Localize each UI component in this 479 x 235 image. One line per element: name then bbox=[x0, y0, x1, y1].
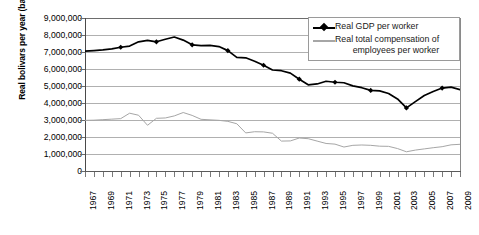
x-tick-label: 2001 bbox=[393, 191, 402, 210]
x-tick-mark bbox=[433, 172, 434, 177]
x-tick-label: 1969 bbox=[107, 191, 116, 210]
x-tick-label: 2005 bbox=[428, 191, 437, 210]
legend-label-gdp: Real GDP per worker bbox=[335, 21, 418, 32]
y-tick-mark bbox=[80, 35, 85, 36]
x-tick-label: 1981 bbox=[214, 191, 223, 210]
x-tick-mark bbox=[380, 172, 381, 177]
y-tick-label: 6,000,000 bbox=[10, 65, 82, 73]
legend-label-compensation-line1: Real total compensation of bbox=[335, 34, 439, 44]
x-tick-mark bbox=[299, 172, 300, 177]
x-tick-mark bbox=[290, 172, 291, 177]
y-tick-mark bbox=[80, 103, 85, 104]
x-tick-mark bbox=[362, 172, 363, 177]
x-tick-label: 1993 bbox=[321, 191, 330, 210]
x-tick-mark bbox=[192, 172, 193, 177]
y-tick-mark bbox=[80, 154, 85, 155]
x-tick-mark bbox=[210, 172, 211, 177]
data-point-marker bbox=[154, 39, 159, 44]
x-tick-mark bbox=[130, 172, 131, 177]
y-tick-mark bbox=[80, 69, 85, 70]
x-tick-mark bbox=[326, 172, 327, 177]
y-tick-label: 4,000,000 bbox=[10, 99, 82, 107]
legend-label-compensation-line2: employees per worker bbox=[335, 45, 439, 56]
legend-key-diamond-line-icon bbox=[313, 22, 335, 33]
y-tick-mark bbox=[80, 86, 85, 87]
x-axis-tick-labels: 1967196919711973197519771979198119831985… bbox=[0, 178, 479, 235]
x-tick-mark bbox=[85, 172, 86, 177]
x-tick-mark bbox=[156, 172, 157, 177]
y-tick-label: 0 bbox=[10, 167, 82, 175]
data-point-marker bbox=[368, 88, 373, 93]
x-tick-mark bbox=[112, 172, 113, 177]
x-tick-mark bbox=[246, 172, 247, 177]
x-tick-label: 1973 bbox=[143, 191, 152, 210]
x-tick-mark bbox=[94, 172, 95, 177]
legend-item-compensation: Real total compensation of employees per… bbox=[313, 34, 455, 55]
x-tick-mark bbox=[424, 172, 425, 177]
y-tick-mark bbox=[80, 120, 85, 121]
x-tick-mark bbox=[451, 172, 452, 177]
x-tick-label: 1991 bbox=[303, 191, 312, 210]
x-tick-mark bbox=[148, 172, 149, 177]
y-tick-mark bbox=[80, 137, 85, 138]
line-real-compensation-per-worker bbox=[85, 113, 460, 152]
legend-key-line-icon bbox=[313, 35, 335, 46]
x-tick-mark bbox=[460, 172, 461, 177]
x-tick-mark bbox=[201, 172, 202, 177]
x-tick-label: 1997 bbox=[357, 191, 366, 210]
x-tick-mark bbox=[344, 172, 345, 177]
x-tick-mark bbox=[139, 172, 140, 177]
x-tick-label: 1989 bbox=[285, 191, 294, 210]
x-tick-mark bbox=[121, 172, 122, 177]
x-tick-mark bbox=[317, 172, 318, 177]
y-tick-label: 3,000,000 bbox=[10, 116, 82, 124]
x-tick-mark bbox=[174, 172, 175, 177]
x-tick-label: 1967 bbox=[89, 191, 98, 210]
x-tick-label: 1983 bbox=[232, 191, 241, 210]
data-point-marker bbox=[118, 45, 123, 50]
x-tick-mark bbox=[228, 172, 229, 177]
x-tick-label: 1975 bbox=[160, 191, 169, 210]
data-point-marker bbox=[440, 85, 445, 90]
x-tick-mark bbox=[183, 172, 184, 177]
x-tick-label: 2003 bbox=[410, 191, 419, 210]
x-tick-mark bbox=[103, 172, 104, 177]
x-tick-label: 1977 bbox=[178, 191, 187, 210]
x-tick-mark bbox=[308, 172, 309, 177]
x-tick-mark bbox=[415, 172, 416, 177]
x-tick-mark bbox=[389, 172, 390, 177]
y-tick-mark bbox=[80, 52, 85, 53]
x-tick-mark bbox=[406, 172, 407, 177]
x-tick-mark bbox=[353, 172, 354, 177]
y-tick-label: 5,000,000 bbox=[10, 82, 82, 90]
x-tick-mark bbox=[255, 172, 256, 177]
x-tick-mark bbox=[335, 172, 336, 177]
x-tick-label: 2009 bbox=[464, 191, 473, 210]
x-tick-label: 2007 bbox=[446, 191, 455, 210]
chart-container: Real bolivars per year (base 1997) 9,000… bbox=[0, 0, 479, 235]
x-tick-mark bbox=[237, 172, 238, 177]
legend-item-gdp: Real GDP per worker bbox=[313, 21, 455, 33]
x-tick-mark bbox=[281, 172, 282, 177]
plot-right-border bbox=[460, 18, 461, 171]
x-tick-mark bbox=[398, 172, 399, 177]
y-tick-label: 9,000,000 bbox=[10, 14, 82, 22]
x-tick-mark bbox=[273, 172, 274, 177]
x-tick-mark bbox=[219, 172, 220, 177]
x-tick-mark bbox=[165, 172, 166, 177]
y-tick-label: 2,000,000 bbox=[10, 133, 82, 141]
x-tick-label: 1979 bbox=[196, 191, 205, 210]
x-tick-mark bbox=[442, 172, 443, 177]
x-tick-label: 1987 bbox=[268, 191, 277, 210]
x-tick-label: 1999 bbox=[375, 191, 384, 210]
x-tick-label: 1995 bbox=[339, 191, 348, 210]
data-point-marker bbox=[332, 80, 337, 85]
y-tick-label: 8,000,000 bbox=[10, 31, 82, 39]
x-tick-label: 1971 bbox=[125, 191, 134, 210]
x-tick-label: 1985 bbox=[250, 191, 259, 210]
y-tick-mark bbox=[80, 18, 85, 19]
x-tick-mark bbox=[264, 172, 265, 177]
y-tick-label: 1,000,000 bbox=[10, 150, 82, 158]
x-tick-mark bbox=[371, 172, 372, 177]
y-tick-label: 7,000,000 bbox=[10, 48, 82, 56]
